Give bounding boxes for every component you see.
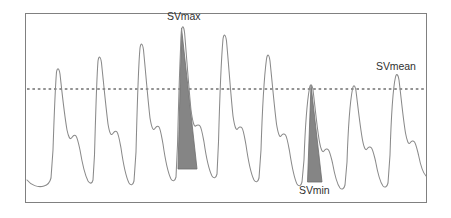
waveform-plot [0, 0, 451, 218]
svmin-label: SVmin [299, 185, 329, 196]
svmax-label: SVmax [167, 11, 200, 22]
svmean-label: SVmean [376, 61, 416, 72]
figure-container: SVmax SVmin SVmean [0, 0, 451, 218]
